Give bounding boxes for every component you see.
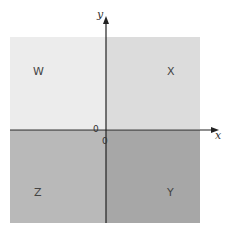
quadrant-label-z: Z bbox=[34, 186, 42, 199]
y-axis-label: y bbox=[97, 8, 103, 21]
quadrant-label-w: W bbox=[33, 65, 44, 78]
quadrant-label-y: Y bbox=[167, 186, 174, 199]
axes bbox=[0, 0, 232, 237]
x-axis-label: x bbox=[215, 129, 221, 142]
y-axis-arrow-icon bbox=[103, 16, 109, 24]
quadrant-label-x: X bbox=[167, 65, 175, 78]
origin-label-x: 0 bbox=[93, 124, 99, 134]
origin-label-y: 0 bbox=[102, 136, 108, 146]
